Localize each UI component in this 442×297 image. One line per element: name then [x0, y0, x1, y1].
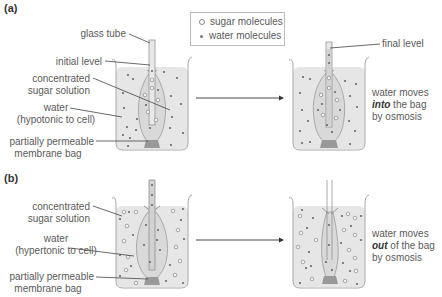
result-b-line1: water moves — [372, 228, 429, 240]
label-water-b-2: (hypertonic to cell) — [6, 245, 106, 257]
beaker-b-initial — [112, 180, 192, 288]
beaker-a-initial — [112, 40, 192, 150]
label-membrane-a-1: partially permeable — [2, 136, 94, 148]
label-water-a-1: water — [6, 102, 106, 114]
beaker-b-final — [289, 180, 369, 288]
result-b-emphasis: out — [372, 240, 388, 251]
result-b-line2: out of the bag — [372, 240, 435, 252]
label-concentrated-b-2: sugar solution — [10, 213, 90, 225]
label-membrane-b-2: membrane bag — [2, 283, 94, 295]
beaker-a-final — [289, 42, 369, 150]
result-b-line3: by osmosis — [372, 252, 422, 264]
result-a-emphasis: into — [372, 99, 390, 110]
label-concentrated-a-1: concentrated — [10, 73, 90, 85]
label-concentrated-a-2: sugar solution — [10, 85, 90, 97]
result-a-line3: by osmosis — [372, 111, 422, 123]
label-glass-tube: glass tube — [60, 28, 126, 40]
label-water-a-2: (hypotonic to cell) — [6, 114, 106, 126]
label-membrane-a-2: membrane bag — [2, 148, 94, 160]
label-membrane-b-1: partially permeable — [2, 271, 94, 283]
label-final-level: final level — [382, 38, 424, 50]
final-level-leader — [330, 44, 380, 48]
label-concentrated-b-1: concentrated — [10, 201, 90, 213]
label-water-b-1: water — [6, 233, 106, 245]
result-a-line2: into the bag — [372, 99, 426, 111]
result-a-line1: water moves — [372, 87, 429, 99]
label-initial-level: initial level — [40, 56, 102, 68]
